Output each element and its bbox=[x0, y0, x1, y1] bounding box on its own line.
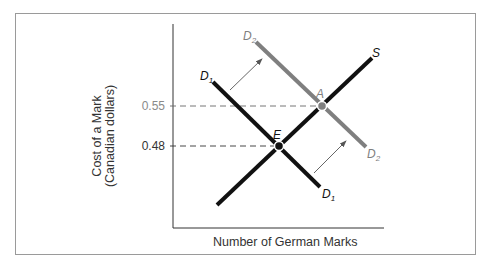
shift-arrow-lower bbox=[314, 141, 346, 173]
y-tick-055: 0.55 bbox=[142, 99, 166, 113]
y-axis-label: Cost of a Mark (Canadian dollars) bbox=[91, 85, 117, 187]
label-d1-top: D1 bbox=[200, 69, 213, 85]
point-a-marker bbox=[318, 102, 327, 111]
label-point-e: E bbox=[273, 128, 282, 142]
point-e-marker bbox=[275, 142, 284, 151]
label-s: S bbox=[372, 46, 380, 60]
label-point-a: A bbox=[315, 87, 324, 101]
supply-demand-diagram: 0.55 0.48 D1 D2 S D1 D2 A E bbox=[0, 0, 492, 271]
demand-curve-d1 bbox=[213, 82, 320, 187]
label-d1-bottom: D1 bbox=[322, 187, 335, 203]
label-d2-bottom: D2 bbox=[367, 147, 381, 163]
y-axis-label-line2: (Canadian dollars) bbox=[104, 85, 117, 187]
x-axis-label: Number of German Marks bbox=[213, 235, 357, 249]
label-d2-top: D2 bbox=[243, 29, 257, 45]
shift-arrow-upper bbox=[230, 59, 262, 90]
y-tick-048: 0.48 bbox=[142, 139, 166, 153]
